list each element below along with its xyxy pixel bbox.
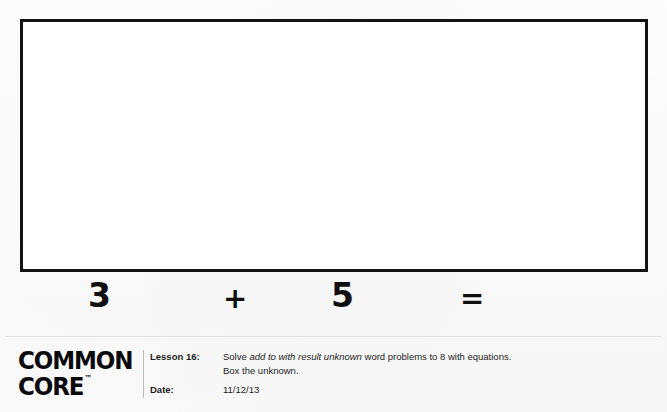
lesson-description-line2: Box the unknown.	[223, 364, 299, 378]
lesson-description: Solve add to with result unknown word pr…	[223, 350, 511, 364]
lesson-row-2: Box the unknown.	[150, 364, 650, 378]
common-core-logo: COMMON CORE™	[18, 349, 127, 398]
trademark-icon: ™	[84, 374, 91, 383]
equation-addend-2: 5	[331, 278, 354, 314]
lesson-row: Lesson 16: Solve add to with result unkn…	[150, 350, 650, 364]
page-footer: COMMON CORE™ Lesson 16: Solve add to wit…	[0, 341, 667, 412]
equation-row: 3 + 5 =	[20, 278, 648, 318]
logo-line-2: CORE	[18, 372, 83, 401]
plus-operator-icon: +	[223, 278, 247, 318]
lesson-description-italic: add to with result unknown	[249, 351, 361, 362]
logo-line-2-wrap: CORE™	[18, 372, 91, 398]
lesson-metadata: Lesson 16: Solve add to with result unkn…	[150, 350, 650, 397]
lesson-description-part2: word problems to 8 with equations.	[362, 351, 511, 362]
date-label: Date:	[150, 383, 174, 397]
logo-line-1: COMMON	[18, 349, 127, 372]
date-row: Date: 11/12/13	[150, 383, 650, 397]
date-value: 11/12/13	[223, 383, 259, 397]
worksheet-page: 3 + 5 = COMMON CORE™ Lesson 16: Solve ad…	[0, 0, 667, 412]
footer-divider-rule	[6, 336, 661, 337]
footer-vertical-divider	[143, 350, 144, 398]
lesson-label: Lesson 16:	[150, 350, 200, 364]
equation-addend-1: 3	[88, 278, 111, 314]
blank-answer-box[interactable]	[20, 19, 648, 272]
equals-operator-icon: =	[460, 278, 484, 318]
lesson-description-part1: Solve	[223, 351, 249, 362]
